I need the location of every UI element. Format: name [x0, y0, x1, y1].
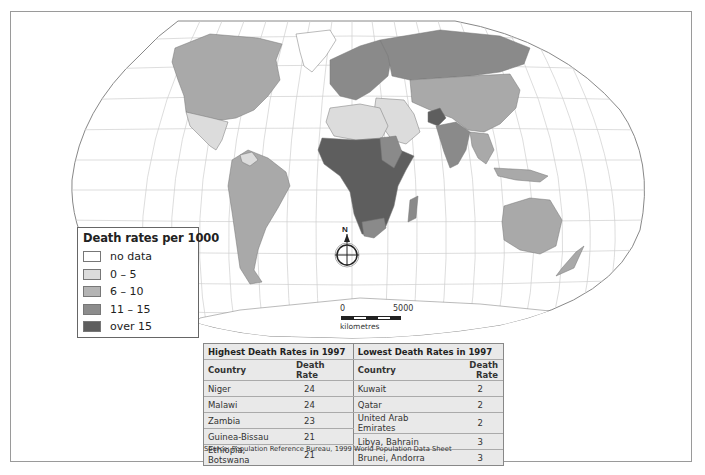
- legend-item: no data: [83, 248, 193, 266]
- table-caption: Highest Death Rates in 1997: [204, 344, 353, 360]
- country-cell: Niger: [204, 381, 292, 397]
- legend-label: over 15: [110, 320, 152, 333]
- rate-cell: 21: [292, 429, 353, 445]
- scale-start: 0: [340, 304, 345, 313]
- table-caption: Lowest Death Rates in 1997: [354, 344, 503, 360]
- rate-cell: 2: [444, 381, 503, 397]
- column-header-death-rate: Death Rate: [292, 360, 353, 381]
- country-cell: Kuwait: [354, 381, 445, 397]
- legend-swatch-over-15: [83, 321, 101, 332]
- source-note: Source: Population Reference Bureau, 199…: [204, 445, 452, 453]
- table-row: Kuwait2: [354, 381, 503, 397]
- rate-cell: 3: [444, 434, 503, 450]
- legend-label: 6 – 10: [110, 285, 144, 298]
- legend-label: 11 – 15: [110, 303, 151, 316]
- table-row: United Arab Emirates2: [354, 413, 503, 434]
- scale-bar-graphic: [341, 316, 401, 320]
- country-cell: Zambia: [204, 413, 292, 429]
- compass-label: N: [342, 225, 348, 234]
- rate-cell: 24: [292, 397, 353, 413]
- table-row: Qatar2: [354, 397, 503, 413]
- rate-cell: 3: [444, 450, 503, 466]
- legend-item: 0 – 5: [83, 266, 193, 284]
- column-header-death-rate: Death Rate: [444, 360, 503, 381]
- legend-swatch-0-5: [83, 269, 101, 280]
- table-row: Zambia23: [204, 413, 353, 429]
- scale-unit: kilometres: [340, 322, 379, 331]
- legend-title: Death rates per 1000: [83, 231, 193, 245]
- table-row: Malawi24: [204, 397, 353, 413]
- table-row: Guinea-Bissau21: [204, 429, 353, 445]
- country-cell: Malawi: [204, 397, 292, 413]
- legend-item: 6 – 10: [83, 283, 193, 301]
- scale-end: 5000: [393, 304, 413, 313]
- legend-label: no data: [110, 250, 152, 263]
- table-row: Niger24: [204, 381, 353, 397]
- legend-swatch-11-15: [83, 304, 101, 315]
- legend-item: 11 – 15: [83, 301, 193, 319]
- legend-swatch-no-data: [83, 251, 101, 262]
- legend-swatch-6-10: [83, 286, 101, 297]
- rate-cell: 23: [292, 413, 353, 429]
- column-header-country: Country: [204, 360, 292, 381]
- country-cell: Qatar: [354, 397, 445, 413]
- legend-item: over 15: [83, 318, 193, 336]
- column-header-country: Country: [354, 360, 445, 381]
- legend: Death rates per 1000 no data 0 – 5 6 – 1…: [77, 227, 199, 338]
- legend-label: 0 – 5: [110, 268, 137, 281]
- rate-cell: 2: [444, 397, 503, 413]
- country-cell: United Arab Emirates: [354, 413, 445, 434]
- rate-cell: 2: [444, 413, 503, 434]
- country-cell: Guinea-Bissau: [204, 429, 292, 445]
- rate-cell: 24: [292, 381, 353, 397]
- region-north-africa: [326, 104, 388, 140]
